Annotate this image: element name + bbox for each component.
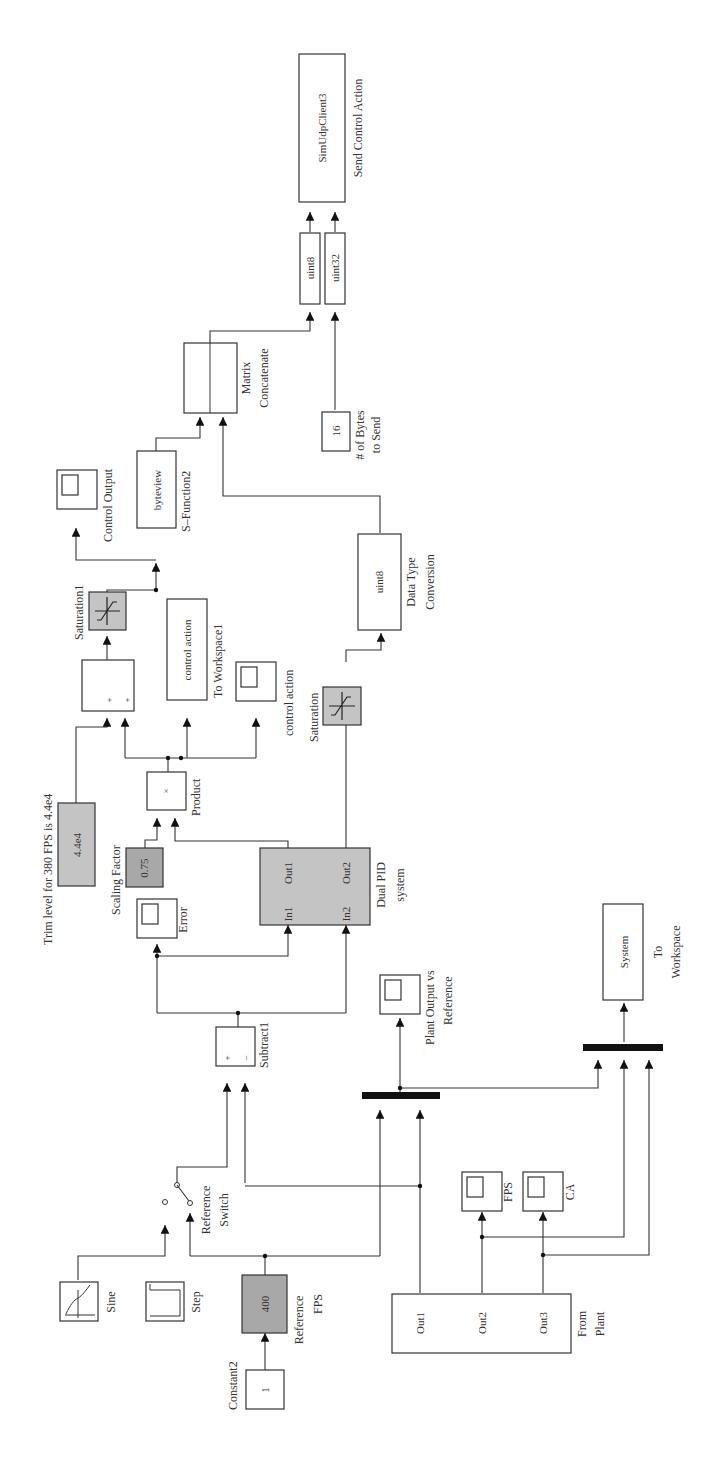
svg-text:Out3: Out3 [537, 1312, 549, 1335]
uint32-cast-block[interactable]: uint32 [325, 233, 345, 304]
svg-text:Out1: Out1 [282, 862, 294, 884]
svg-text:System: System [618, 935, 630, 968]
svg-text:0.75: 0.75 [138, 858, 150, 878]
svg-text:1: 1 [259, 1387, 271, 1393]
svg-text:S–Function2: S–Function2 [179, 471, 193, 532]
svg-text:control action: control action [282, 670, 296, 736]
control-output-scope[interactable]: Control Output [57, 468, 115, 542]
svg-text:+: + [222, 1055, 232, 1060]
error-scope[interactable]: Error [137, 899, 190, 938]
svg-text:400: 400 [259, 1295, 271, 1312]
svg-text:uint8: uint8 [373, 570, 385, 593]
constant2-block[interactable]: 1 Constant2 [226, 1361, 284, 1410]
svg-text:Out2: Out2 [340, 862, 352, 884]
svg-text:Out2: Out2 [476, 1312, 488, 1334]
svg-text:byteview: byteview [151, 470, 163, 510]
bytes-to-send-block[interactable]: 16 # of Bytes to Send [322, 410, 383, 460]
svg-text:In2: In2 [340, 907, 352, 922]
svg-text:system: system [393, 868, 407, 902]
svg-text:CA: CA [563, 1183, 577, 1200]
product-block[interactable]: × Product [147, 772, 203, 816]
saturation1-block[interactable]: Saturation1 [72, 585, 126, 640]
control-action-scope[interactable]: control action [236, 662, 296, 736]
svg-text:Data Type: Data Type [404, 557, 418, 606]
svg-text:×: × [161, 788, 171, 793]
dual-pid-subsystem[interactable]: In1 Out1 In2 Out2 Dual PID system [260, 848, 407, 925]
to-workspace1-block[interactable]: control action To Workspace1 [167, 599, 225, 700]
svg-text:Scaling Factor: Scaling Factor [109, 845, 123, 915]
svg-text:Saturation1: Saturation1 [72, 585, 86, 640]
mux1-block[interactable] [362, 1092, 440, 1099]
svg-text:Send Control Action: Send Control Action [351, 79, 365, 178]
svg-text:Reference: Reference [292, 1296, 306, 1345]
svg-text:Reference: Reference [199, 1186, 213, 1235]
svg-text:Reference: Reference [441, 976, 455, 1025]
svg-text:In1: In1 [282, 907, 294, 922]
svg-text:uint32: uint32 [329, 254, 341, 282]
subtract1-block[interactable]: + – Subtract1 [216, 1022, 271, 1068]
svg-text:Plant Output vs: Plant Output vs [423, 970, 437, 1045]
constant2-label: Constant2 [226, 1361, 240, 1410]
svg-text:FPS: FPS [501, 1182, 515, 1202]
matrix-concatenate-block[interactable]: Matrix Concatenate [184, 343, 271, 413]
svg-text:SimUdpClient3: SimUdpClient3 [316, 93, 328, 163]
fps-scope[interactable]: FPS [462, 1172, 515, 1211]
svg-text:+: + [122, 697, 132, 702]
reference-switch-block[interactable]: Reference Switch [163, 1183, 232, 1235]
svg-text:Switch: Switch [217, 1193, 231, 1226]
svg-text:+: + [104, 697, 114, 702]
svg-text:Sine: Sine [104, 1291, 118, 1312]
trim-level-block[interactable]: 4.4e4 Trim level for 380 FPS is 4.4e4 [41, 794, 95, 945]
svg-text:Workspace: Workspace [669, 925, 683, 978]
plant-output-scope[interactable]: Plant Output vs Reference [380, 970, 455, 1045]
svg-text:Concatenate: Concatenate [257, 348, 271, 407]
svg-text:Step: Step [189, 1291, 203, 1312]
uint8-cast-block[interactable]: uint8 [300, 233, 320, 304]
svg-text:to Send: to Send [369, 417, 383, 453]
svg-text:16: 16 [330, 425, 342, 437]
svg-text:control action: control action [181, 619, 193, 680]
simulink-diagram: 1 Constant2 400 Reference FPS Sine Step … [0, 0, 721, 1462]
mux2-block[interactable] [583, 1044, 663, 1051]
sum-block[interactable]: + + [82, 660, 134, 711]
svg-text:Subtract1: Subtract1 [257, 1022, 271, 1068]
svg-text:–: – [240, 1055, 250, 1061]
svg-text:Control Output: Control Output [101, 468, 115, 542]
from-plant-subsystem[interactable]: Out1 Out2 Out3 From Plant [392, 1294, 607, 1353]
svg-text:Product: Product [189, 778, 203, 816]
reference-fps-block[interactable]: 400 Reference FPS [242, 1275, 325, 1344]
to-workspace-block[interactable]: System To Workspace [603, 904, 683, 1000]
svg-text:# of Bytes: # of Bytes [353, 410, 367, 460]
svg-text:Error: Error [176, 907, 190, 932]
svg-text:Plant: Plant [593, 1311, 607, 1336]
svg-text:Out1: Out1 [414, 1312, 426, 1334]
saturation-block[interactable]: Saturation [307, 687, 361, 742]
svg-text:To Workspace1: To Workspace1 [211, 624, 225, 698]
sim-udp-client3-block[interactable]: SimUdpClient3 Send Control Action [299, 54, 365, 202]
svg-text:4.4e4: 4.4e4 [71, 832, 83, 857]
ca-scope[interactable]: CA [523, 1172, 577, 1211]
svg-text:FPS: FPS [311, 1294, 325, 1314]
svg-text:Trim level for 380 FPS is 4.4e: Trim level for 380 FPS is 4.4e4 [41, 794, 55, 945]
svg-text:Matrix: Matrix [239, 362, 253, 395]
sine-block[interactable]: Sine [60, 1282, 118, 1321]
svg-text:Conversion: Conversion [423, 554, 437, 609]
svg-text:From: From [575, 1310, 589, 1337]
svg-text:To: To [651, 946, 665, 959]
svg-text:uint8: uint8 [304, 256, 316, 279]
s-function2-block[interactable]: byteview S–Function2 [137, 451, 193, 532]
step-block[interactable]: Step [146, 1282, 203, 1321]
svg-text:Dual PID: Dual PID [374, 862, 388, 908]
data-type-conversion-block[interactable]: uint8 Data Type Conversion [358, 534, 437, 630]
svg-text:Saturation: Saturation [307, 693, 321, 742]
